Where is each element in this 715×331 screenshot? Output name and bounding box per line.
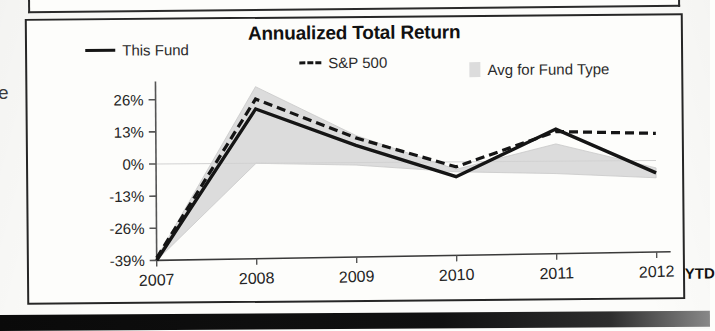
x-tick-label: 2011 [539, 264, 574, 282]
x-axis-ytd-suffix: YTD [685, 264, 715, 281]
y-tick-label: 0% [122, 156, 144, 173]
x-tick-label: 2009 [339, 267, 375, 285]
x-tick-label: 2010 [439, 266, 475, 284]
y-axis-tick-labels: 26%13%0%-13%-26%-39% [108, 91, 144, 269]
x-axis-tick-labels: 200720082009201020112012 [139, 262, 675, 289]
x-tick-label: 2007 [139, 271, 175, 289]
y-tick-label: -26% [109, 220, 144, 237]
annualized-total-return-chart-panel: Annualized Total Return This Fund S&P 50… [25, 13, 685, 305]
y-tick-label: -13% [109, 188, 144, 205]
left-margin-clipped-glyph: e [0, 82, 9, 104]
x-tick-label: 2012 [639, 262, 675, 280]
plot-area: 26%13%0%-13%-26%-39% 2007200820092010201… [27, 16, 683, 303]
x-tick-label: 2008 [239, 269, 275, 287]
avg-for-fund-type-band [155, 84, 656, 260]
y-tick-label: 13% [114, 123, 144, 140]
y-tick-label: 26% [113, 91, 143, 108]
y-tick-label: -39% [110, 252, 145, 269]
